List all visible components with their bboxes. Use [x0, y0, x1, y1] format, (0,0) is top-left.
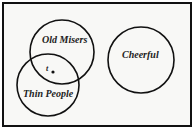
- point-label: t: [46, 64, 49, 73]
- cheerful-label: Cheerful: [122, 49, 159, 60]
- venn-diagram: Old Misers Thin People Cheerful t: [0, 0, 194, 129]
- thin-people-label: Thin People: [23, 88, 74, 99]
- old-misers-circle: [30, 20, 94, 84]
- cheerful-circle: [108, 27, 174, 93]
- old-misers-label: Old Misers: [42, 34, 87, 45]
- point-t-marker: [51, 70, 54, 73]
